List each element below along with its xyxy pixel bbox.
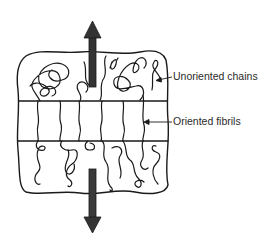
oriented-fibrils bbox=[37, 95, 144, 141]
unoriented-chains-label: Unoriented chains bbox=[173, 71, 258, 82]
oriented-fibrils-label: Oriented fibrils bbox=[173, 116, 241, 127]
unoriented-chains-bottom bbox=[35, 141, 160, 191]
tensile-arrow-down bbox=[84, 169, 101, 233]
tensile-arrow-up bbox=[84, 21, 101, 87]
